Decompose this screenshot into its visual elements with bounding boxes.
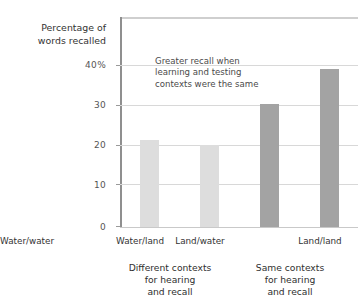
group-label-different-line-3: and recall bbox=[110, 286, 230, 298]
y-axis-title-line-1: Percentage of bbox=[10, 22, 106, 35]
y-tick-label-10: 10 bbox=[66, 180, 106, 190]
x-tick-label-land-land: Land/land bbox=[290, 236, 350, 246]
x-tick-label-water-land: Water/land bbox=[110, 236, 170, 246]
group-label-same-line-2: for hearing bbox=[230, 274, 350, 286]
annotation-line-1: Greater recall when bbox=[155, 56, 295, 67]
plot-area bbox=[120, 17, 358, 228]
annotation-line-3: contexts were the same bbox=[155, 79, 295, 90]
x-tick-label-water-water: Water/water bbox=[0, 236, 54, 246]
tick-mark-40 bbox=[116, 65, 120, 66]
group-label-different-line-2: for hearing bbox=[110, 274, 230, 286]
plot-top-border bbox=[120, 17, 358, 19]
group-label-different-line-1: Different contexts bbox=[110, 262, 230, 274]
bar-water-water[interactable] bbox=[260, 104, 279, 227]
bar-water-land[interactable] bbox=[140, 140, 159, 227]
annotation-line-2: learning and testing bbox=[155, 67, 295, 78]
tick-mark-10 bbox=[116, 184, 120, 185]
y-tick-label-20: 20 bbox=[66, 140, 106, 150]
bar-land-water[interactable] bbox=[200, 145, 219, 227]
group-label-same-line-3: and recall bbox=[230, 286, 350, 298]
group-label-same-line-1: Same contexts bbox=[230, 262, 350, 274]
bar-land-land[interactable] bbox=[320, 69, 339, 227]
group-label-same-contexts: Same contexts for hearing and recall bbox=[230, 262, 350, 297]
x-tick-label-land-water: Land/water bbox=[170, 236, 230, 246]
y-tick-label-40: 40% bbox=[66, 60, 106, 70]
y-axis-title: Percentage of words recalled bbox=[10, 22, 106, 47]
y-axis-line bbox=[120, 17, 122, 228]
y-tick-label-30: 30 bbox=[66, 100, 106, 110]
y-axis-title-line-2: words recalled bbox=[10, 35, 106, 48]
group-label-different-contexts: Different contexts for hearing and recal… bbox=[110, 262, 230, 297]
y-tick-label-0: 0 bbox=[66, 222, 106, 232]
chart-annotation: Greater recall when learning and testing… bbox=[155, 56, 295, 90]
tick-mark-20 bbox=[116, 145, 120, 146]
x-axis-baseline bbox=[120, 227, 358, 229]
tick-mark-30 bbox=[116, 105, 120, 106]
